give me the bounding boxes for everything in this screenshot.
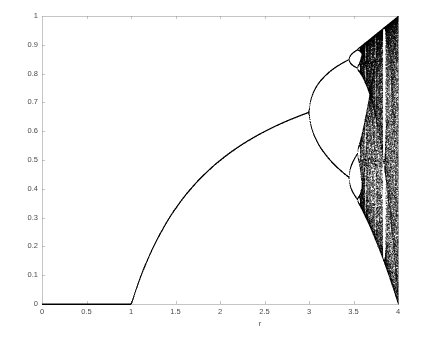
x-axis-tick-label: 1 (129, 308, 133, 316)
x-axis-tick-label: 1.5 (170, 308, 180, 316)
x-axis-label: r (259, 320, 262, 328)
x-axis-tick-label: 3.5 (348, 308, 358, 316)
x-axis-tick-label: 4 (396, 308, 400, 316)
x-axis-tick-label: 2.5 (259, 308, 269, 316)
y-axis-tick-label: 0.5 (28, 156, 38, 164)
x-axis-tick-label: 3 (307, 308, 311, 316)
bifurcation-diagram-figure: 00.10.20.30.40.50.60.70.80.9100.511.522.… (0, 0, 423, 342)
y-axis-tick-label: 0.4 (28, 185, 38, 193)
y-axis-tick-label: 0.6 (28, 127, 38, 135)
x-axis-tick-label: 0 (40, 308, 44, 316)
y-axis-tick-label: 0.1 (28, 271, 38, 279)
y-axis-tick-label: 0.8 (28, 70, 38, 78)
x-axis-tick-label: 2 (218, 308, 222, 316)
y-axis-tick-label: 1 (34, 12, 38, 20)
y-axis-tick-label: 0 (34, 300, 38, 308)
y-axis-tick-label: 0.3 (28, 214, 38, 222)
x-axis-tick-label: 0.5 (81, 308, 91, 316)
y-axis-tick-label: 0.2 (28, 243, 38, 251)
y-axis-tick-label: 0.7 (28, 99, 38, 107)
bifurcation-plot-canvas (0, 0, 423, 342)
y-axis-tick-label: 0.9 (28, 41, 38, 49)
